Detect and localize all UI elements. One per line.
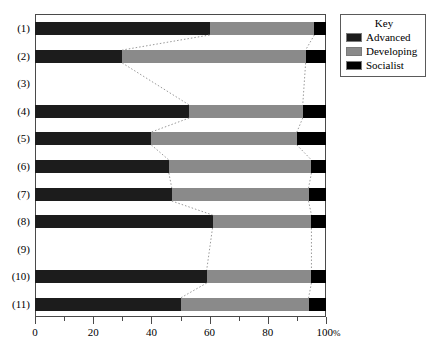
legend-label: Socialist [366, 59, 404, 72]
category-axis-labels: (1)(2)(3)(4)(5)(6)(7)(8)(9)(10)(11) [0, 14, 33, 317]
bar-segment-developing [210, 22, 315, 35]
bars-container [35, 14, 326, 317]
bar-segment-advanced [35, 188, 172, 201]
bar-segment-developing [172, 188, 309, 201]
category-label: (10) [12, 270, 30, 283]
bar-segment-advanced [35, 105, 189, 118]
bar-segment-socialist [309, 298, 326, 311]
bar-row [35, 215, 326, 228]
x-tick-label: 100% [316, 326, 340, 340]
category-label: (4) [17, 105, 30, 118]
bar-segment-developing [151, 132, 297, 145]
bar-row [35, 160, 326, 173]
x-tick-minor [64, 317, 65, 321]
bar-row [35, 77, 326, 90]
bar-segment-advanced [35, 215, 213, 228]
legend-swatch-icon [346, 47, 362, 56]
bar-segment-developing [213, 215, 312, 228]
legend-swatch-icon [346, 33, 362, 42]
x-tick-major [151, 317, 152, 324]
legend-box: Key AdvancedDevelopingSocialist [340, 14, 426, 77]
category-label: (5) [17, 132, 30, 145]
bar-segment-socialist [309, 188, 326, 201]
category-label: (8) [17, 215, 30, 228]
bar-row [35, 22, 326, 35]
bar-segment-socialist [311, 215, 326, 228]
x-tick-minor [239, 317, 240, 321]
category-label: (2) [17, 50, 30, 63]
x-tick-minor [297, 317, 298, 321]
legend-label: Advanced [366, 31, 411, 44]
bar-segment-advanced [35, 160, 169, 173]
x-tick-label: 60 [204, 326, 215, 339]
bar-segment-socialist [311, 270, 326, 283]
bar-segment-developing [189, 105, 302, 118]
bar-segment-advanced [35, 50, 122, 63]
x-axis-tick-labels: 020406080100% [0, 326, 432, 342]
x-tick-major [210, 317, 211, 324]
percent-sign: % [333, 328, 341, 338]
category-label: (11) [12, 298, 30, 311]
bar-segment-developing [181, 298, 309, 311]
legend-item[interactable]: Developing [346, 45, 424, 58]
x-tick-major [35, 317, 36, 324]
x-tick-label: 80 [262, 326, 273, 339]
bar-segment-socialist [306, 50, 326, 63]
legend-item[interactable]: Socialist [346, 59, 424, 72]
legend-label: Developing [366, 45, 417, 58]
bar-row [35, 132, 326, 145]
bar-segment-developing [207, 270, 312, 283]
bar-segment-developing [169, 160, 312, 173]
x-tick-major [93, 317, 94, 324]
x-tick-major [268, 317, 269, 324]
category-label: (1) [17, 22, 30, 35]
bar-segment-socialist [303, 105, 326, 118]
bar-segment-developing [122, 50, 305, 63]
x-tick-label: 0 [32, 326, 38, 339]
category-label: (3) [17, 77, 30, 90]
x-tick-major [326, 317, 327, 324]
legend-item[interactable]: Advanced [346, 31, 424, 44]
x-tick-minor [181, 317, 182, 321]
category-label: (9) [17, 243, 30, 256]
bar-segment-advanced [35, 270, 207, 283]
x-tick-minor [122, 317, 123, 321]
bar-segment-advanced [35, 298, 181, 311]
bar-row [35, 188, 326, 201]
stacked-bar-chart-figure: (1)(2)(3)(4)(5)(6)(7)(8)(9)(10)(11) 0204… [0, 0, 432, 352]
bar-row [35, 105, 326, 118]
bar-segment-socialist [297, 132, 326, 145]
bar-row [35, 270, 326, 283]
category-label: (7) [17, 188, 30, 201]
bar-segment-socialist [311, 160, 326, 173]
x-tick-label: 40 [146, 326, 157, 339]
category-label: (6) [17, 160, 30, 173]
legend-title: Key [341, 17, 427, 30]
x-tick-label: 20 [88, 326, 99, 339]
bar-row [35, 243, 326, 256]
bar-row [35, 298, 326, 311]
legend-swatch-icon [346, 61, 362, 70]
bar-segment-advanced [35, 132, 151, 145]
bar-row [35, 50, 326, 63]
bar-segment-socialist [314, 22, 326, 35]
bar-segment-advanced [35, 22, 210, 35]
